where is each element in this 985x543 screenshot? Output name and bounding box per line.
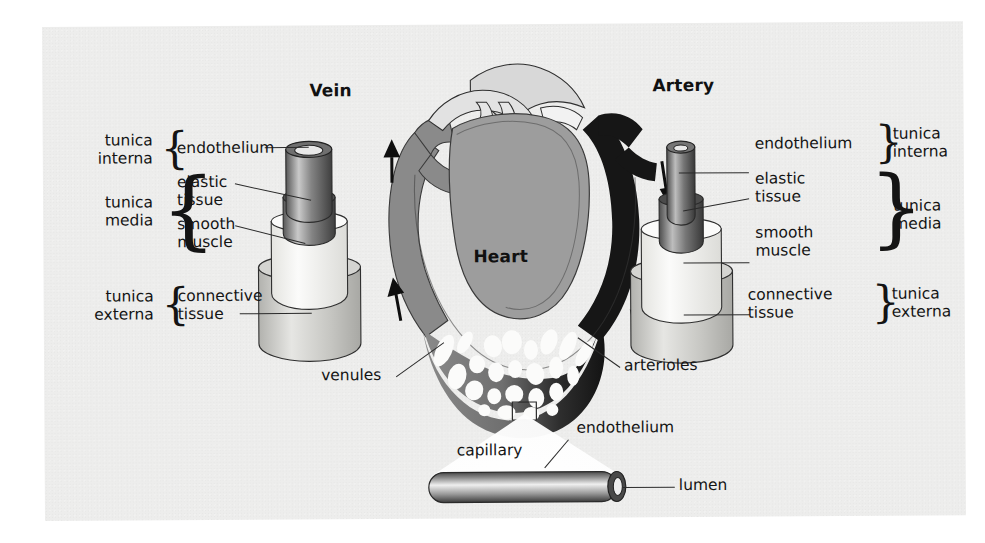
vein-vessel-illustration bbox=[258, 141, 361, 362]
vein-connective-tissue-label: connectivetissue bbox=[178, 288, 263, 324]
vein-title: Vein bbox=[309, 80, 352, 100]
artery-connective-tissue-label: connectivetissue bbox=[748, 286, 833, 322]
vein-endothelium-label: endothelium bbox=[177, 140, 275, 158]
capillary-endothelium-label: endothelium bbox=[576, 419, 674, 437]
circulation-loop bbox=[388, 63, 658, 370]
figure-canvas: Vein Artery Heart tunicainterna { endoth… bbox=[0, 0, 985, 543]
capillary-label: capillary bbox=[457, 441, 523, 459]
vein-elastic-tissue-label: elastictissue bbox=[177, 174, 228, 209]
artery-tunica-externa-label: tunicaexterna bbox=[892, 285, 952, 320]
artery-endothelium-label: endothelium bbox=[755, 135, 853, 153]
artery-smooth-muscle-label: smoothmuscle bbox=[755, 224, 813, 259]
artery-title: Artery bbox=[652, 75, 714, 95]
artery-elastic-tissue-label: elastictissue bbox=[755, 170, 806, 205]
scanned-page: Vein Artery Heart tunicainterna { endoth… bbox=[42, 21, 966, 521]
artery-tunica-media-label: tunicamedia bbox=[893, 198, 941, 233]
capillary-lumen-label: lumen bbox=[679, 477, 728, 495]
vein-tunica-media-label: tunicamedia bbox=[63, 194, 153, 230]
vein-tunica-externa-label: tunicaexterna bbox=[58, 288, 154, 324]
artery-tunica-interna-label: tunicainterna bbox=[893, 125, 948, 160]
venules-label: venules bbox=[321, 367, 381, 385]
heart-title: Heart bbox=[473, 246, 528, 266]
vein-smooth-muscle-label: smoothmuscle bbox=[177, 216, 235, 251]
vein-tunica-interna-label: tunicainterna bbox=[63, 132, 153, 168]
arterioles-label: arterioles bbox=[624, 357, 698, 375]
